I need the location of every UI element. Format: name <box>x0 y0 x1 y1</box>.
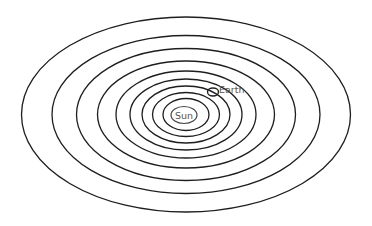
earth-label: Earth <box>219 84 244 95</box>
solar-system-orbit-diagram: Sun Earth <box>0 0 372 226</box>
sun-label: Sun <box>175 110 193 121</box>
